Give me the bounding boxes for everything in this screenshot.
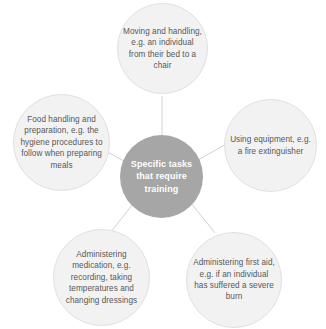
node-label: Food handling and preparation, e.g. the … <box>14 114 109 171</box>
node-label: Moving and handling, e.g. an individual … <box>118 26 207 72</box>
connector-line-bottomleft <box>110 204 133 233</box>
node-administering-first-aid[interactable]: Administering first aid, e.g. if an indi… <box>186 232 282 328</box>
node-food-handling-and-preparation[interactable]: Food handling and preparation, e.g. the … <box>13 94 110 191</box>
node-label: Administering first aid, e.g. if an indi… <box>187 257 281 303</box>
center-node-specific-tasks[interactable]: Specific tasks that require training <box>120 135 203 218</box>
node-label: Using equipment, e.g. a fire extinguishe… <box>225 134 316 157</box>
node-using-equipment[interactable]: Using equipment, e.g. a fire extinguishe… <box>224 99 317 192</box>
node-moving-and-handling[interactable]: Moving and handling, e.g. an individual … <box>117 3 208 94</box>
node-label: Administering medication, e.g. recording… <box>54 249 149 306</box>
connector-line-bottomright <box>191 203 215 233</box>
center-node-label: Specific tasks that require training <box>120 158 203 195</box>
node-administering-medication[interactable]: Administering medication, e.g. recording… <box>53 229 150 326</box>
hub-and-spoke-diagram: Moving and handling, e.g. an individual … <box>0 0 326 329</box>
